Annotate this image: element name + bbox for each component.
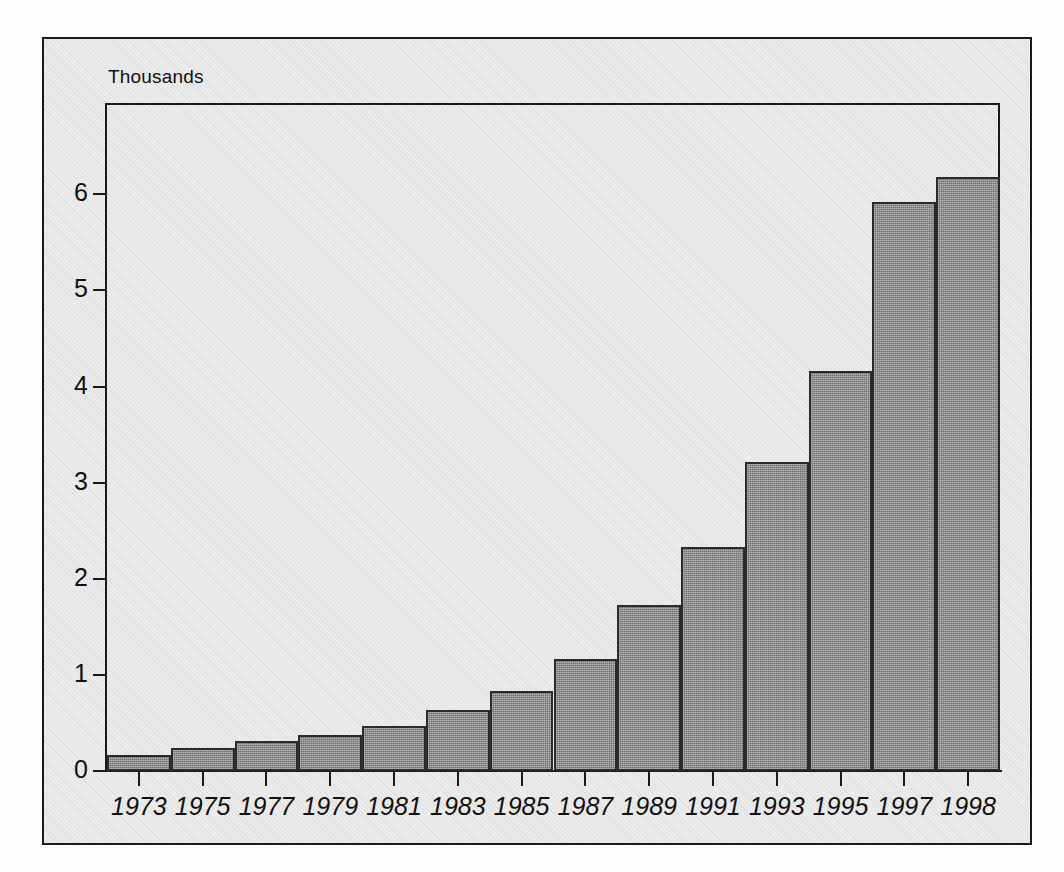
bar bbox=[107, 755, 171, 771]
y-axis-tick bbox=[93, 578, 106, 580]
y-axis-tick-label: 3 bbox=[42, 467, 88, 496]
bar bbox=[554, 659, 618, 771]
bar bbox=[298, 735, 362, 771]
x-axis-tick-label: 1997 bbox=[877, 792, 933, 821]
y-axis-tick bbox=[93, 193, 106, 195]
bar bbox=[681, 547, 745, 771]
y-axis-tick-label: 1 bbox=[42, 659, 88, 688]
x-axis-tick-label: 1977 bbox=[239, 792, 295, 821]
y-axis-tick-label: 4 bbox=[42, 371, 88, 400]
x-axis-tick bbox=[584, 772, 586, 786]
bar bbox=[617, 605, 681, 771]
x-axis-tick-label: 1981 bbox=[366, 792, 422, 821]
y-axis-tick bbox=[93, 482, 106, 484]
x-axis-tick bbox=[840, 772, 842, 786]
bar bbox=[490, 691, 554, 771]
y-axis-tick-label: 6 bbox=[42, 178, 88, 207]
y-axis-tick-label: 2 bbox=[42, 563, 88, 592]
bar bbox=[936, 177, 1000, 771]
x-axis-tick bbox=[138, 772, 140, 786]
x-axis-tick bbox=[393, 772, 395, 786]
y-axis-tick bbox=[93, 674, 106, 676]
x-axis-tick-label: 1987 bbox=[558, 792, 614, 821]
bar bbox=[362, 726, 426, 771]
bar bbox=[426, 710, 490, 771]
x-axis-tick bbox=[903, 772, 905, 786]
x-axis-tick-label: 1973 bbox=[111, 792, 167, 821]
x-axis-tick-label: 1983 bbox=[430, 792, 486, 821]
chart-figure: Thousands 0123456 1973197519771979198119… bbox=[0, 0, 1064, 872]
x-axis-tick-label: 1979 bbox=[302, 792, 358, 821]
bar bbox=[809, 371, 873, 771]
x-axis-tick bbox=[776, 772, 778, 786]
bar bbox=[171, 748, 235, 771]
x-axis-tick bbox=[648, 772, 650, 786]
y-axis-tick bbox=[93, 770, 106, 772]
x-axis-tick bbox=[967, 772, 969, 786]
bar bbox=[872, 202, 936, 771]
x-axis-tick bbox=[712, 772, 714, 786]
x-axis-tick bbox=[265, 772, 267, 786]
bar bbox=[235, 741, 299, 771]
x-axis-tick-label: 1989 bbox=[621, 792, 677, 821]
x-axis-tick-label: 1995 bbox=[813, 792, 869, 821]
y-axis-tick bbox=[93, 386, 106, 388]
y-axis-units-label: Thousands bbox=[108, 66, 204, 88]
x-axis-tick bbox=[202, 772, 204, 786]
y-axis-tick bbox=[93, 289, 106, 291]
x-axis-tick bbox=[457, 772, 459, 786]
x-axis-tick-label: 1993 bbox=[749, 792, 805, 821]
x-axis-tick bbox=[521, 772, 523, 786]
y-axis-tick-label: 0 bbox=[42, 755, 88, 784]
x-axis-tick-label: 1998 bbox=[940, 792, 996, 821]
y-axis-tick-label: 5 bbox=[42, 274, 88, 303]
x-axis-tick-label: 1975 bbox=[175, 792, 231, 821]
x-axis-tick-label: 1985 bbox=[494, 792, 550, 821]
bar bbox=[745, 462, 809, 771]
x-axis-tick-label: 1991 bbox=[685, 792, 741, 821]
x-axis-tick bbox=[329, 772, 331, 786]
